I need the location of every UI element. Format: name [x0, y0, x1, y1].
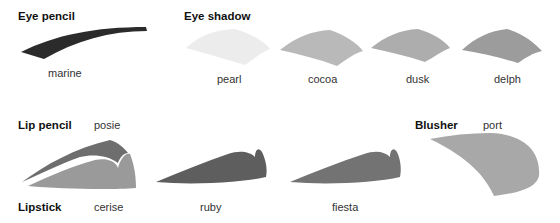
shade-label-marine: marine	[48, 67, 82, 79]
eye-pencil-swatch-marine	[21, 27, 147, 59]
lipstick-swatch-fiesta	[290, 149, 401, 183]
blusher-heading: Blusher	[415, 119, 458, 131]
eye-shadow-swatch-cocoa	[280, 30, 363, 66]
eye-shadow-swatch-delph	[462, 29, 542, 63]
eye-shadow-swatch-dusk	[371, 29, 450, 62]
lip-pencil-heading: Lip pencil	[18, 119, 72, 131]
shade-label-pearl: pearl	[217, 73, 241, 85]
shade-label-fiesta: fiesta	[332, 201, 358, 213]
shade-label-cerise: cerise	[94, 201, 123, 213]
shade-label-dusk: dusk	[406, 73, 429, 85]
shade-label-ruby: ruby	[200, 201, 221, 213]
blusher-swatch-port	[430, 133, 539, 196]
swatch-illustrations	[0, 0, 560, 223]
shade-label-port: port	[483, 119, 502, 131]
shade-label-delph: delph	[494, 73, 521, 85]
lipstick-heading: Lipstick	[18, 201, 61, 213]
lipstick-swatch-ruby	[156, 149, 267, 183]
shade-label-cocoa: cocoa	[308, 73, 337, 85]
shade-label-posie: posie	[94, 119, 120, 131]
eye-pencil-heading: Eye pencil	[18, 10, 75, 22]
eye-shadow-heading: Eye shadow	[184, 10, 250, 22]
eye-shadow-swatch-pearl	[186, 29, 270, 65]
